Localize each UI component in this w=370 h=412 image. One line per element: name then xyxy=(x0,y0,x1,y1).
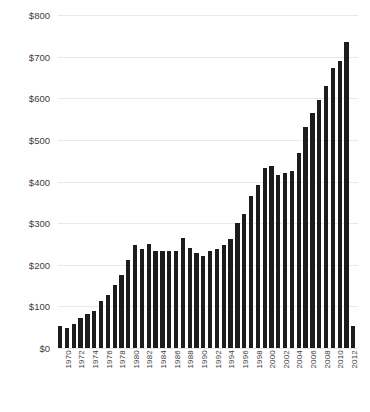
y-tick-label: $600 xyxy=(0,93,50,104)
bar xyxy=(303,127,307,348)
bar xyxy=(256,185,260,348)
bar xyxy=(201,256,205,348)
bar-chart: $800$700$600$500$400$300$200$100$0 19701… xyxy=(0,0,370,412)
bar xyxy=(174,251,178,348)
bar xyxy=(324,86,328,348)
bar xyxy=(194,253,198,348)
bar xyxy=(283,173,287,348)
x-tick-label: 1970 xyxy=(64,350,73,369)
y-tick-label: $800 xyxy=(0,10,50,21)
plot-area xyxy=(58,15,358,348)
bar xyxy=(147,244,151,348)
bar xyxy=(263,168,267,348)
bar xyxy=(126,260,130,348)
x-axis-labels: 1970197219741976197819801982198419861988… xyxy=(58,350,358,412)
bar xyxy=(72,324,76,348)
x-tick-label: 1992 xyxy=(214,350,223,369)
bar xyxy=(188,248,192,348)
x-tick-label: 1998 xyxy=(255,350,264,369)
bar xyxy=(106,295,110,348)
bar xyxy=(242,214,246,348)
y-tick-label: $500 xyxy=(0,134,50,145)
bar xyxy=(297,153,301,348)
bar xyxy=(99,301,103,348)
x-tick-label: 2004 xyxy=(295,350,304,369)
bar-series xyxy=(58,15,358,348)
x-tick-label: 1990 xyxy=(200,350,209,369)
bar xyxy=(78,318,82,348)
x-tick-label: 2010 xyxy=(336,350,345,369)
bar xyxy=(153,251,157,348)
y-tick-label: $0 xyxy=(0,343,50,354)
bar xyxy=(215,249,219,348)
bar xyxy=(228,239,232,348)
bar xyxy=(208,251,212,348)
y-tick-label: $200 xyxy=(0,259,50,270)
bar xyxy=(92,311,96,348)
y-tick-label: $300 xyxy=(0,218,50,229)
x-tick-label: 2012 xyxy=(350,350,359,369)
bar xyxy=(160,251,164,348)
bar xyxy=(133,245,137,348)
bar xyxy=(65,328,69,348)
bar xyxy=(119,275,123,348)
x-tick-label: 2002 xyxy=(282,350,291,369)
x-tick-label: 1988 xyxy=(186,350,195,369)
y-tick-label: $700 xyxy=(0,51,50,62)
x-tick-label: 1984 xyxy=(159,350,168,369)
x-tick-label: 1986 xyxy=(173,350,182,369)
x-tick-label: 1978 xyxy=(118,350,127,369)
x-tick-label: 1974 xyxy=(91,350,100,369)
bar xyxy=(85,314,89,348)
bar xyxy=(344,42,348,348)
x-tick-label: 1982 xyxy=(145,350,154,369)
bar xyxy=(317,100,321,348)
bar xyxy=(331,68,335,348)
bar xyxy=(269,166,273,348)
x-tick-label: 2000 xyxy=(268,350,277,369)
y-tick-label: $400 xyxy=(0,176,50,187)
x-tick-label: 2006 xyxy=(309,350,318,369)
bar xyxy=(310,113,314,348)
bar xyxy=(222,245,226,348)
bar xyxy=(167,251,171,348)
x-tick-label: 1996 xyxy=(241,350,250,369)
x-tick-label: 1980 xyxy=(132,350,141,369)
bar xyxy=(113,285,117,348)
bar xyxy=(351,326,355,348)
bar xyxy=(276,175,280,348)
bar xyxy=(290,171,294,348)
x-tick-label: 2008 xyxy=(323,350,332,369)
x-tick-label: 1994 xyxy=(227,350,236,369)
bar xyxy=(338,61,342,348)
bar xyxy=(181,238,185,348)
bar xyxy=(140,249,144,348)
bar xyxy=(235,223,239,348)
x-tick-label: 1976 xyxy=(105,350,114,369)
y-tick-label: $100 xyxy=(0,301,50,312)
x-tick-label: 1972 xyxy=(77,350,86,369)
y-axis-labels: $800$700$600$500$400$300$200$100$0 xyxy=(0,0,54,412)
bar xyxy=(249,196,253,348)
bar xyxy=(58,326,62,348)
